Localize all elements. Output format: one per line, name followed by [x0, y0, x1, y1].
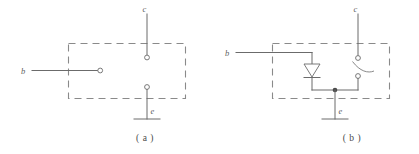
panel-a-base-label: b — [21, 66, 25, 76]
panel-b-switch-bottom-terminal — [356, 74, 361, 79]
panel-a-collector-label: c — [143, 4, 147, 14]
panel-a-collector-node-circle — [145, 55, 150, 60]
panel-a: c b e ( a ) — [21, 4, 186, 144]
panel-b-emitter-label: e — [339, 106, 343, 116]
panel-b-caption: ( b ) — [343, 133, 361, 144]
panel-b-switch-top-terminal — [356, 56, 361, 61]
panel-a-emitter-node-circle — [145, 85, 150, 90]
panel-a-caption: ( a ) — [136, 133, 154, 144]
panel-b-collector-label: c — [354, 4, 358, 14]
panel-b-base-label: b — [225, 48, 229, 58]
circuit-figure: c b e ( a ) c — [0, 0, 419, 154]
panel-a-emitter-label: e — [151, 106, 155, 116]
panel-a-base-node-circle — [98, 68, 103, 73]
panel-b-diode-icon — [304, 64, 320, 77]
panel-b: c b e ( b ) — [225, 4, 390, 144]
figure-root: c b e ( a ) c — [0, 0, 419, 154]
panel-b-switch-blade-icon — [353, 62, 375, 72]
